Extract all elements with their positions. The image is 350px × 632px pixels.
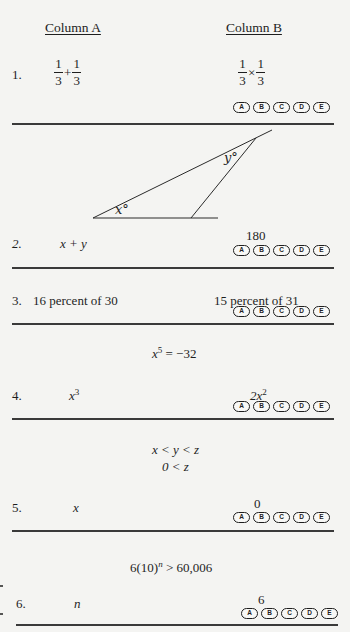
question-5-given-line-2: 0 < z [162, 459, 189, 475]
question-5-number: 5. [12, 500, 22, 516]
divider-line [12, 267, 334, 269]
answer-bubble-b[interactable]: B [253, 401, 270, 412]
margin-mark [0, 585, 3, 587]
divider-line [12, 530, 334, 532]
question-2-answer-choices: A B C D E [233, 245, 330, 256]
answer-bubble-c[interactable]: C [273, 245, 290, 256]
question-5-column-b: 0 [254, 496, 261, 512]
question-2-column-a: x + y [60, 236, 87, 252]
answer-bubble-d[interactable]: D [301, 608, 318, 619]
question-4-column-a: x3 [69, 388, 79, 404]
question-5-answer-choices: A B C D E [233, 512, 330, 523]
question-3-column-a: 16 percent of 30 [33, 293, 118, 309]
question-5-given-line-1: x < y < z [152, 442, 199, 458]
question-6-number: 6. [16, 596, 26, 612]
question-2-number: 2. [12, 236, 22, 252]
question-4-number: 4. [12, 388, 22, 404]
angle-x-label: x° [115, 202, 129, 217]
answer-bubble-e[interactable]: E [313, 245, 330, 256]
answer-bubble-c[interactable]: C [273, 401, 290, 412]
answer-bubble-c[interactable]: C [273, 306, 290, 317]
question-3-number: 3. [12, 293, 22, 309]
question-4-answer-choices: A B C D E [233, 401, 330, 412]
answer-bubble-e[interactable]: E [313, 306, 330, 317]
question-4-given: x5 = −32 [152, 346, 196, 362]
answer-bubble-e[interactable]: E [313, 512, 330, 523]
question-6-given: 6(10)n > 60,006 [130, 560, 212, 576]
question-5-column-a: x [73, 500, 79, 516]
column-a-exponent: 3 [75, 387, 80, 397]
answer-bubble-a[interactable]: A [233, 512, 250, 523]
answer-bubble-b[interactable]: B [253, 306, 270, 317]
given-base: 6(10) [130, 560, 158, 575]
answer-bubble-c[interactable]: C [273, 512, 290, 523]
given-rest: > 60,006 [163, 560, 213, 575]
answer-bubble-d[interactable]: D [293, 245, 310, 256]
column-b-exponent: 2 [262, 387, 267, 397]
given-rest: = −32 [162, 346, 196, 361]
answer-bubble-a[interactable]: A [241, 608, 258, 619]
answer-bubble-a[interactable]: A [233, 245, 250, 256]
question-3-answer-choices: A B C D E [233, 306, 330, 317]
question-6-answer-choices: A B C D E [241, 608, 338, 619]
answer-bubble-b[interactable]: B [261, 608, 278, 619]
answer-bubble-d[interactable]: D [293, 306, 310, 317]
question-6-column-b: 6 [258, 592, 265, 608]
margin-mark [0, 613, 3, 615]
answer-bubble-a[interactable]: A [233, 401, 250, 412]
answer-bubble-c[interactable]: C [281, 608, 298, 619]
answer-bubble-a[interactable]: A [233, 306, 250, 317]
answer-bubble-e[interactable]: E [321, 608, 338, 619]
angle-y-label: y° [224, 150, 238, 165]
divider-line [12, 418, 334, 420]
answer-bubble-d[interactable]: D [293, 401, 310, 412]
divider-line [12, 323, 334, 325]
answer-bubble-b[interactable]: B [253, 245, 270, 256]
question-2-column-b: 180 [246, 228, 266, 244]
answer-bubble-b[interactable]: B [253, 512, 270, 523]
answer-bubble-d[interactable]: D [293, 512, 310, 523]
answer-bubble-e[interactable]: E [313, 401, 330, 412]
question-6-column-a: n [74, 596, 81, 612]
divider-line [16, 624, 338, 626]
